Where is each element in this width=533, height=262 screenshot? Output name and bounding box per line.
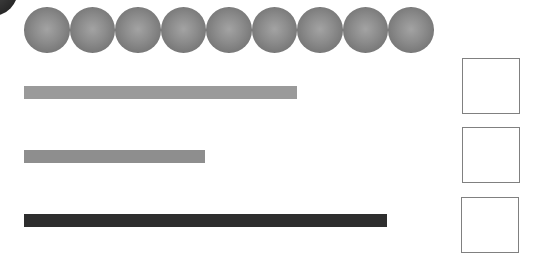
ball-3[interactable]	[115, 7, 161, 53]
bar-1[interactable]	[24, 86, 297, 99]
ball-9[interactable]	[388, 7, 434, 53]
answer-box-2[interactable]	[462, 127, 520, 183]
ball-4[interactable]	[161, 7, 207, 53]
ball-2[interactable]	[70, 7, 116, 53]
bar-3[interactable]	[24, 214, 387, 227]
ball-6[interactable]	[252, 7, 298, 53]
corner-disc	[0, 0, 18, 16]
ball-8[interactable]	[343, 7, 389, 53]
answer-box-1[interactable]	[462, 58, 520, 114]
bar-2[interactable]	[24, 150, 205, 163]
ball-1[interactable]	[24, 7, 70, 53]
ball-5[interactable]	[206, 7, 252, 53]
answer-box-3[interactable]	[461, 197, 519, 253]
ball-7[interactable]	[297, 7, 343, 53]
ball-row	[24, 7, 434, 53]
